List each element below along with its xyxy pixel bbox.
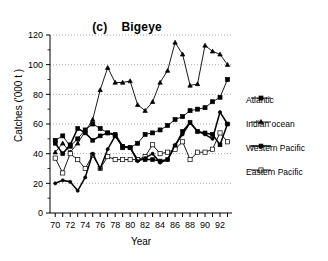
- axis-ticks: [46, 35, 228, 217]
- svg-text:74: 74: [80, 220, 90, 230]
- svg-text:70: 70: [50, 220, 60, 230]
- svg-text:20: 20: [33, 179, 43, 189]
- legend-label: Western Pacific: [246, 143, 328, 153]
- svg-text:40: 40: [33, 149, 43, 159]
- series-western-pacific: [53, 121, 229, 163]
- legend-marker-icon: [250, 112, 328, 119]
- svg-text:90: 90: [200, 220, 210, 230]
- svg-text:0: 0: [38, 208, 43, 218]
- legend-item-atlantic[interactable]: Atlantic: [246, 88, 328, 105]
- legend-label: Atlantic: [246, 95, 328, 105]
- legend-item-eastern-pacific[interactable]: Eastern Pacific: [246, 160, 328, 177]
- legend-marker-icon: [250, 136, 328, 143]
- svg-text:60: 60: [33, 119, 43, 129]
- legend-marker-icon: [250, 160, 328, 167]
- svg-text:92: 92: [215, 220, 225, 230]
- y-tick-labels: 020406080100120: [28, 30, 43, 218]
- svg-text:72: 72: [65, 220, 75, 230]
- legend-item-indian-ocean[interactable]: Indian ocean: [246, 112, 328, 129]
- legend-marker-icon: [250, 88, 328, 95]
- legend-item-western-pacific[interactable]: Western Pacific: [246, 136, 328, 153]
- svg-text:76: 76: [95, 220, 105, 230]
- svg-text:86: 86: [170, 220, 180, 230]
- x-tick-labels: 707274767880828486889092: [50, 220, 225, 230]
- svg-text:82: 82: [140, 220, 150, 230]
- data-series-layer: [53, 40, 230, 192]
- legend-label: Indian ocean: [246, 119, 328, 129]
- svg-text:84: 84: [155, 220, 165, 230]
- x-axis-label: Year: [50, 236, 232, 247]
- svg-text:120: 120: [28, 30, 43, 40]
- svg-text:78: 78: [110, 220, 120, 230]
- y-axis-label: Catches ('000 t ): [13, 41, 24, 171]
- chart-legend: AtlanticIndian oceanWestern PacificEaste…: [246, 88, 328, 184]
- svg-text:80: 80: [125, 220, 135, 230]
- svg-text:100: 100: [28, 60, 43, 70]
- svg-text:88: 88: [185, 220, 195, 230]
- series-atlantic: [53, 78, 229, 150]
- svg-text:80: 80: [33, 90, 43, 100]
- chart-panel: (c)Bigeye 020406080100120 70727476788082…: [0, 0, 328, 261]
- legend-label: Eastern Pacific: [246, 167, 328, 177]
